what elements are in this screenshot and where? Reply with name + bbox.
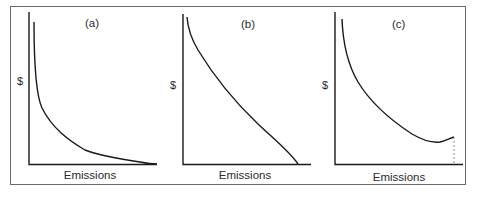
panel-a (29, 12, 157, 165)
panel-c-ylabel: $ (322, 79, 328, 91)
panel-b-curve (187, 17, 298, 164)
panel-b-ylabel: $ (170, 79, 176, 91)
panel-a-axes (29, 12, 157, 165)
panel-c-label: (c) (392, 18, 405, 30)
panel-b-axes (183, 14, 311, 165)
panel-c-xlabel: Emissions (373, 171, 425, 183)
panel-a-xlabel: Emissions (64, 169, 116, 181)
panel-a-curve (34, 22, 157, 164)
panel-a-label: (a) (85, 17, 99, 29)
panel-b-xlabel: Emissions (219, 169, 271, 181)
panel-b-label: (b) (241, 18, 255, 30)
figure-plots (0, 0, 477, 197)
panel-b (183, 14, 311, 165)
panel-c-curve (342, 19, 454, 142)
panel-a-ylabel: $ (17, 75, 23, 87)
panel-c (335, 12, 463, 165)
